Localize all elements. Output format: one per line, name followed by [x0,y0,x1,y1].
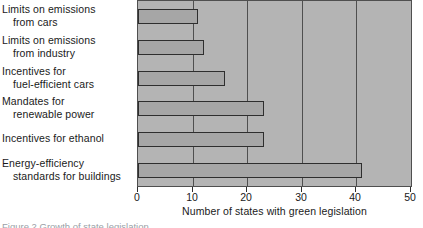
category-label-line: Incentives for [2,65,134,78]
bar [138,71,225,86]
bar [138,101,264,116]
plot-area [137,0,412,187]
bar [138,9,198,24]
category-label: Incentives forfuel-efficient cars [2,65,134,90]
bar [138,132,264,147]
plot-inner [138,1,411,186]
category-label-line: Mandates for [2,95,134,108]
category-label: Limits on emissionsfrom industry [2,34,134,59]
category-label: Mandates forrenewable power [2,95,134,120]
category-label-line: from cars [2,16,134,29]
bar-chart-figure: Limits on emissionsfrom carsLimits on em… [0,0,423,228]
x-tick-label: 30 [295,191,307,204]
category-axis-labels: Limits on emissionsfrom carsLimits on em… [0,0,136,189]
x-axis-title: Number of states with green legislation [137,205,412,217]
category-label-line: Limits on emissions [2,34,134,47]
gridline-10 [193,1,194,186]
bar [138,40,204,55]
x-tick-label: 0 [134,191,140,204]
category-label: Incentives for ethanol [2,132,134,145]
gridline-20 [247,1,248,186]
category-label: Energy-efficiencystandards for buildings [2,157,134,182]
x-axis-tick-labels: 01020304050 [137,191,412,205]
category-label-line: from industry [2,47,134,60]
category-label-line: renewable power [2,108,134,121]
bar [138,163,362,178]
x-tick-label: 50 [404,191,416,204]
figure-caption: Figure 2 Growth of state legislation [2,221,302,228]
gridline-40 [356,1,357,186]
category-label-line: standards for buildings [2,170,134,183]
category-label-line: Energy-efficiency [2,157,134,170]
x-tick-label: 20 [240,191,252,204]
category-label: Limits on emissionsfrom cars [2,3,134,28]
x-tick-label: 40 [349,191,361,204]
category-label-line: fuel-efficient cars [2,78,134,91]
gridline-30 [302,1,303,186]
category-label-line: Limits on emissions [2,3,134,16]
x-tick-label: 10 [186,191,198,204]
category-label-line: Incentives for ethanol [2,132,134,145]
